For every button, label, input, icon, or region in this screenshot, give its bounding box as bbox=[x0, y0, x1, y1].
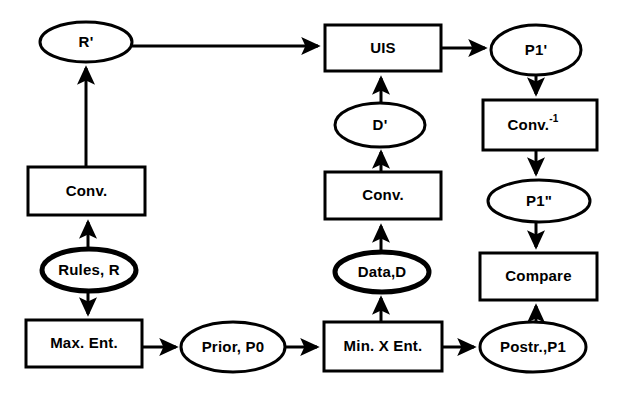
node-r_prime[interactable]: R' bbox=[40, 22, 132, 62]
node-label-superscript: -1 bbox=[549, 113, 559, 124]
node-label-conv_mid: Conv. bbox=[362, 186, 404, 203]
node-label-r_prime: R' bbox=[79, 33, 94, 50]
flowchart-svg: R'UISP1'D'Conv.-1Conv.Conv.P1"Rules, RDa… bbox=[0, 0, 622, 397]
flowchart-diagram: R'UISP1'D'Conv.-1Conv.Conv.P1"Rules, RDa… bbox=[0, 0, 622, 397]
node-conv_left[interactable]: Conv. bbox=[28, 167, 145, 215]
node-label-min_x_ent: Min. X Ent. bbox=[344, 337, 423, 354]
node-label-postr_p1: Postr.,P1 bbox=[500, 338, 566, 355]
edges-layer bbox=[86, 46, 536, 347]
node-rules_r[interactable]: Rules, R bbox=[42, 249, 136, 291]
node-conv_inv[interactable]: Conv.-1 bbox=[483, 100, 597, 150]
node-label-d_prime: D' bbox=[373, 116, 388, 133]
node-label-p1_dprime: P1" bbox=[526, 192, 552, 209]
nodes-layer: R'UISP1'D'Conv.-1Conv.Conv.P1"Rules, RDa… bbox=[26, 22, 597, 372]
node-uis[interactable]: UIS bbox=[325, 25, 441, 71]
node-prior_p0[interactable]: Prior, P0 bbox=[181, 322, 285, 372]
node-min_x_ent[interactable]: Min. X Ent. bbox=[324, 322, 442, 371]
node-data_d[interactable]: Data,D bbox=[335, 252, 429, 292]
node-label-prior_p0: Prior, P0 bbox=[202, 338, 265, 355]
node-label-rules_r: Rules, R bbox=[58, 261, 120, 278]
node-d_prime[interactable]: D' bbox=[335, 103, 425, 147]
node-label-conv_left: Conv. bbox=[66, 182, 108, 199]
node-p1_dprime[interactable]: P1" bbox=[488, 180, 590, 222]
node-label-max_ent: Max. Ent. bbox=[50, 334, 118, 351]
node-p1_prime[interactable]: P1' bbox=[491, 25, 581, 75]
node-compare[interactable]: Compare bbox=[480, 253, 597, 300]
node-max_ent[interactable]: Max. Ent. bbox=[26, 320, 142, 367]
node-conv_mid[interactable]: Conv. bbox=[325, 172, 441, 219]
node-label-compare: Compare bbox=[505, 267, 571, 284]
node-postr_p1[interactable]: Postr.,P1 bbox=[480, 322, 586, 372]
node-label-p1_prime: P1' bbox=[525, 41, 548, 58]
node-label-uis: UIS bbox=[370, 39, 396, 56]
node-label-data_d: Data,D bbox=[358, 263, 407, 280]
